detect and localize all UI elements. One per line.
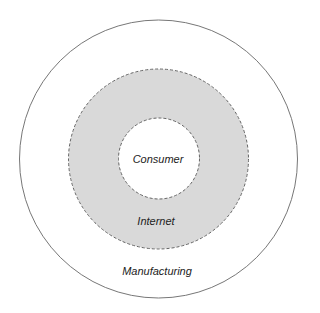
- label-consumer: Consumer: [133, 153, 184, 165]
- label-internet: Internet: [137, 215, 174, 227]
- label-manufacturing: Manufacturing: [122, 265, 192, 277]
